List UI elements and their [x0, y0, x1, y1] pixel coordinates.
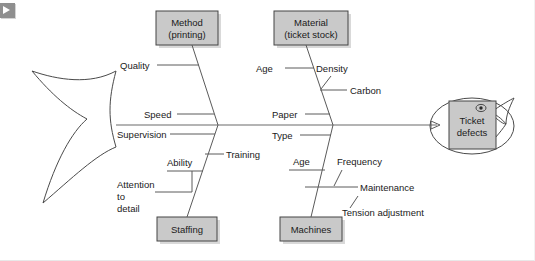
bone-method: [192, 45, 218, 125]
category-machines[interactable]: Machines Type Age Frequency Maintenance …: [272, 125, 424, 244]
bone-machines: [311, 125, 333, 217]
fish-head: Ticket defects: [430, 98, 514, 154]
cause-label-training: Training: [226, 149, 260, 160]
cause-label-tension-adjustment: Tension adjustment: [342, 207, 424, 218]
category-label-staffing: Staffing: [171, 224, 203, 235]
cause-label-supervision: Supervision: [117, 129, 167, 140]
cause-label-density: Density: [316, 63, 348, 74]
bone-material: [306, 45, 333, 125]
cause-label-maintenance: Maintenance: [360, 182, 414, 193]
cause-stub-density: [321, 76, 331, 89]
category-label-method-line1: Method: [171, 17, 203, 28]
category-label-method-line2: (printing): [168, 29, 206, 40]
effect-label-line2: defects: [457, 127, 488, 138]
effect-label-line1: Ticket: [460, 115, 485, 126]
fishbone-diagram-svg: Ticket defects Method (printing) Quality…: [0, 0, 535, 261]
cause-label-detail: detail: [117, 203, 140, 214]
cause-stub-frequency: [334, 170, 342, 186]
cause-label-attention: Attention: [117, 179, 155, 190]
category-label-material-line1: Material: [294, 17, 328, 28]
category-method[interactable]: Method (printing) Quality Speed: [120, 11, 221, 125]
category-label-machines: Machines: [291, 224, 332, 235]
category-material[interactable]: Material (ticket stock) Age Density Carb…: [256, 11, 381, 125]
cause-label-ability: Ability: [167, 157, 193, 168]
cause-label-quality: Quality: [120, 60, 150, 71]
fishbone-diagram-canvas: Ticket defects Method (printing) Quality…: [0, 0, 535, 261]
fish-tail: [32, 71, 116, 203]
cause-label-frequency: Frequency: [337, 156, 382, 167]
cause-label-speed: Speed: [144, 109, 171, 120]
cause-label-type: Type: [272, 130, 293, 141]
cause-label-age-material: Age: [256, 63, 273, 74]
category-label-material-line2: (ticket stock): [284, 29, 337, 40]
cause-label-to: to: [117, 191, 125, 202]
category-staffing[interactable]: Staffing Supervision Training Ability At…: [117, 125, 260, 244]
cause-label-carbon: Carbon: [350, 85, 381, 96]
cause-label-paper: Paper: [272, 109, 297, 120]
cause-label-age-machines: Age: [293, 156, 310, 167]
